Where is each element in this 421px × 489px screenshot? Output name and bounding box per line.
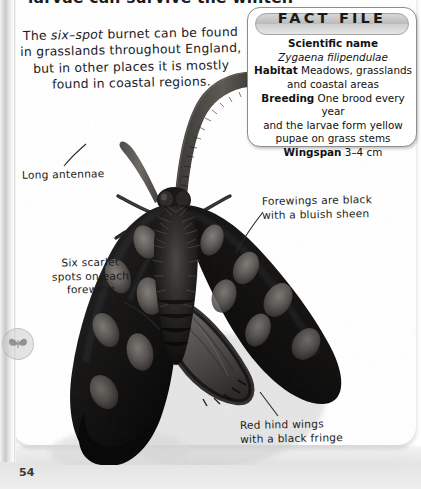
breeding-value-line2: and the larvae form yellow <box>263 119 403 131</box>
wingspan-value: 3–4 cm <box>345 146 383 158</box>
fact-row-scientific-value: Zygaena filipendulae <box>253 51 413 64</box>
fact-file-box: FACT FILE Scientific name Zygaena filipe… <box>247 7 417 147</box>
intro-text-italic: six–spot <box>51 27 103 43</box>
fact-file-body: Scientific name Zygaena filipendulae Hab… <box>253 37 413 160</box>
habitat-value-line2: and coastal areas <box>287 78 379 90</box>
wingspan-label: Wingspan <box>284 146 342 158</box>
butterfly-watermark-icon <box>2 328 34 360</box>
habitat-value: Meadows, grasslands <box>301 64 412 76</box>
scientific-name-label: Scientific name <box>288 37 378 49</box>
habitat-label: Habitat <box>254 64 298 76</box>
annotation-forewings-black: Forewings are black with a bluish sheen <box>262 193 373 222</box>
cut-off-heading: larvae can survive the winter. <box>28 0 278 7</box>
intro-paragraph: The six–spot burnet can be found in gras… <box>16 24 245 94</box>
fact-row-habitat-cont: and coastal areas <box>253 78 413 91</box>
breeding-value-line3: pupae on grass stems <box>276 132 391 144</box>
intro-text-a: The <box>23 28 51 44</box>
scientific-name-value: Zygaena filipendulae <box>278 51 388 63</box>
page-spine-edge <box>14 0 16 462</box>
fact-row-breeding-cont3: pupae on grass stems <box>253 132 413 145</box>
fact-row-breeding-cont2: and the larvae form yellow <box>253 119 413 132</box>
annotation-six-scarlet-spots: Six scarlet spots on each forewing <box>52 255 130 297</box>
page-spine <box>0 0 15 462</box>
fact-row-scientific-heading: Scientific name <box>253 37 413 50</box>
breeding-label: Breeding <box>261 92 314 104</box>
fact-row-breeding: Breeding One brood every year <box>253 92 413 118</box>
fact-row-wingspan: Wingspan 3–4 cm <box>253 146 413 159</box>
fact-row-habitat: Habitat Meadows, grasslands <box>253 64 413 77</box>
book-page: larvae can survive the winter. The six–s… <box>0 0 421 489</box>
page-number: 54 <box>19 466 34 479</box>
breeding-value: One brood every year <box>318 92 405 117</box>
annotation-red-hind-wings: Red hind wings with a black fringe <box>240 417 343 446</box>
annotation-long-antennae: Long antennae <box>22 167 105 182</box>
fact-file-title: FACT FILE <box>248 10 416 26</box>
